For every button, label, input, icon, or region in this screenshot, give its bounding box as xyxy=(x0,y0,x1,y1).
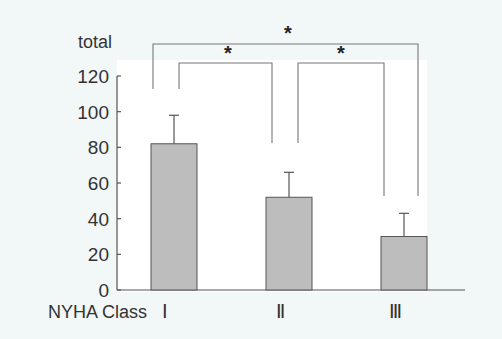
y-tick-label: 40 xyxy=(88,209,109,230)
y-tick-label: 100 xyxy=(77,102,109,123)
significance-asterisk: * xyxy=(284,22,292,44)
bar xyxy=(381,237,427,291)
x-category-label: Ⅲ xyxy=(389,301,402,322)
x-axis-title: NYHA Class xyxy=(48,302,147,322)
x-category-label: Ⅱ xyxy=(276,301,285,322)
y-axis-label: total xyxy=(78,32,112,52)
bar xyxy=(151,144,197,290)
bar xyxy=(266,197,312,290)
y-tick-label: 0 xyxy=(98,280,109,301)
bar-chart: 020406080100120 ⅠⅡⅢ *** total NYHA Class xyxy=(0,0,502,339)
x-category-label: Ⅰ xyxy=(162,301,168,322)
y-tick-label: 120 xyxy=(77,66,109,87)
y-tick-label: 60 xyxy=(88,173,109,194)
y-tick-label: 20 xyxy=(88,244,109,265)
y-tick-label: 80 xyxy=(88,137,109,158)
significance-asterisk: * xyxy=(337,42,345,64)
significance-asterisk: * xyxy=(224,42,232,64)
